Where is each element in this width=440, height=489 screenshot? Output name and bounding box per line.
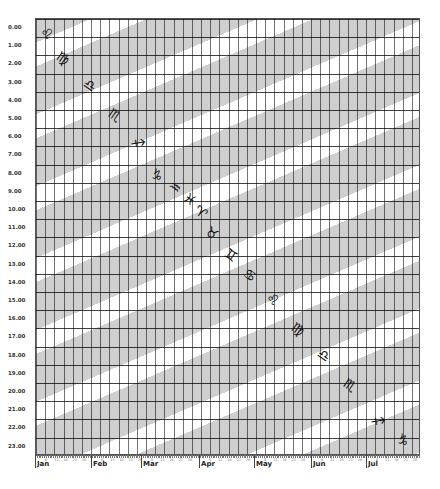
day-label: 21 bbox=[237, 458, 241, 462]
day-tick bbox=[95, 455, 96, 458]
day-tick bbox=[262, 455, 263, 458]
day-label: 21 bbox=[292, 458, 296, 462]
y-tick-label: 10.00 bbox=[8, 206, 32, 212]
day-label: 21 bbox=[179, 458, 183, 462]
day-label: 6 bbox=[264, 458, 266, 462]
day-tick bbox=[324, 455, 325, 458]
day-label: 16 bbox=[282, 458, 286, 462]
y-tick-label: 23.00 bbox=[8, 443, 32, 449]
day-label: 6 bbox=[209, 458, 211, 462]
day-tick bbox=[202, 455, 203, 458]
month-tick bbox=[311, 455, 312, 468]
day-label: 26 bbox=[301, 458, 305, 462]
y-tick-label: 14.00 bbox=[8, 279, 32, 285]
day-label: 21 bbox=[73, 458, 77, 462]
y-tick-label: 9.00 bbox=[8, 188, 32, 194]
day-label: 11 bbox=[54, 458, 58, 462]
day-label: 11 bbox=[330, 458, 334, 462]
day-label: 6 bbox=[45, 458, 47, 462]
y-tick-label: 15.00 bbox=[8, 297, 32, 303]
day-tick bbox=[353, 455, 354, 458]
day-label: 26 bbox=[413, 458, 417, 462]
month-label: Apr bbox=[201, 460, 215, 468]
day-tick bbox=[216, 455, 217, 458]
day-tick bbox=[233, 455, 234, 458]
y-tick-label: 18.00 bbox=[8, 352, 32, 358]
y-tick-label: 4.00 bbox=[8, 97, 32, 103]
day-label: 21 bbox=[404, 458, 408, 462]
y-tick-label: 0.00 bbox=[8, 24, 32, 30]
day-label: 6 bbox=[151, 458, 153, 462]
y-tick-label: 21.00 bbox=[8, 406, 32, 412]
y-tick-label: 2.00 bbox=[8, 60, 32, 66]
y-tick-label: 5.00 bbox=[8, 115, 32, 121]
day-label: 16 bbox=[169, 458, 173, 462]
day-label: 16 bbox=[394, 458, 398, 462]
month-tick bbox=[254, 455, 255, 468]
day-label: 21 bbox=[129, 458, 133, 462]
day-label: 6 bbox=[321, 458, 323, 462]
day-label: 16 bbox=[119, 458, 123, 462]
day-label: 16 bbox=[339, 458, 343, 462]
month-label: Jan bbox=[37, 460, 49, 468]
day-tick bbox=[419, 455, 420, 458]
day-label: 26 bbox=[246, 458, 250, 462]
day-tick bbox=[50, 455, 51, 458]
y-tick-label: 22.00 bbox=[8, 424, 32, 430]
day-tick bbox=[125, 455, 126, 458]
y-tick-label: 6.00 bbox=[8, 133, 32, 139]
month-tick bbox=[366, 455, 367, 468]
zodiac-rising-chart: 0.001.002.003.004.005.006.007.008.009.00… bbox=[0, 0, 440, 489]
y-tick-label: 11.00 bbox=[8, 224, 32, 230]
day-label: 21 bbox=[349, 458, 353, 462]
day-label: 6 bbox=[101, 458, 103, 462]
month-tick bbox=[91, 455, 92, 468]
day-label: 16 bbox=[63, 458, 67, 462]
day-label: 26 bbox=[188, 458, 192, 462]
y-tick-label: 17.00 bbox=[8, 333, 32, 339]
day-label: 11 bbox=[160, 458, 164, 462]
month-tick bbox=[199, 455, 200, 468]
y-tick-label: 12.00 bbox=[8, 242, 32, 248]
day-label: 26 bbox=[82, 458, 86, 462]
day-tick bbox=[399, 455, 400, 458]
y-tick-label: 13.00 bbox=[8, 261, 32, 267]
y-tick-label: 7.00 bbox=[8, 151, 32, 157]
y-tick-label: 16.00 bbox=[8, 315, 32, 321]
day-label: 16 bbox=[227, 458, 231, 462]
day-tick bbox=[308, 455, 309, 458]
y-tick-label: 3.00 bbox=[8, 79, 32, 85]
y-tick-label: 20.00 bbox=[8, 388, 32, 394]
day-tick bbox=[79, 455, 80, 458]
month-label: Jun bbox=[313, 460, 326, 468]
day-label: 6 bbox=[376, 458, 378, 462]
day-label: 11 bbox=[273, 458, 277, 462]
day-label: 11 bbox=[110, 458, 114, 462]
day-label: 11 bbox=[385, 458, 389, 462]
y-tick-label: 8.00 bbox=[8, 170, 32, 176]
day-label: 11 bbox=[218, 458, 222, 462]
day-tick bbox=[156, 455, 157, 458]
day-tick bbox=[370, 455, 371, 458]
day-label: 26 bbox=[358, 458, 362, 462]
day-tick bbox=[278, 455, 279, 458]
month-tick bbox=[141, 455, 142, 468]
month-tick bbox=[35, 455, 36, 468]
y-tick-label: 19.00 bbox=[8, 370, 32, 376]
y-tick-label: 1.00 bbox=[8, 42, 32, 48]
